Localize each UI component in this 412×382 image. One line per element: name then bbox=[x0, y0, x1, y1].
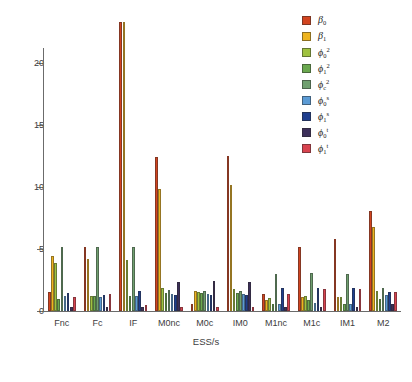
x-axis-tick-label: M0nc bbox=[151, 316, 187, 332]
x-axis-tick-label: IM0 bbox=[223, 316, 259, 332]
x-axis-title: ESS/s bbox=[0, 336, 412, 347]
legend-label: ϕ0t bbox=[318, 126, 328, 139]
x-axis-tick-label: M1c bbox=[294, 316, 330, 332]
legend-color-swatch bbox=[302, 80, 311, 89]
legend-label: ϕ12 bbox=[318, 62, 330, 75]
legend-item: ϕ0t bbox=[302, 124, 410, 140]
bar-group bbox=[115, 20, 151, 311]
bar bbox=[287, 294, 290, 311]
x-axis-tick-labels: FncFcIFM0ncM0cIM0M1ncM1cIM1M2 bbox=[44, 316, 401, 332]
bar bbox=[180, 307, 183, 311]
chart-root: 05101520 FncFcIFM0ncM0cIM0M1ncM1cIM1M2 E… bbox=[0, 0, 412, 382]
bar bbox=[216, 307, 219, 311]
bar-group bbox=[151, 20, 187, 311]
bar-group bbox=[187, 20, 223, 311]
bar bbox=[323, 289, 326, 311]
legend-label: β0 bbox=[318, 14, 326, 26]
bar-group bbox=[223, 20, 259, 311]
legend-color-swatch bbox=[302, 32, 311, 41]
legend-item: ϕ02 bbox=[302, 44, 410, 60]
y-axis-tick-label: 0 bbox=[18, 307, 44, 316]
legend-label: ϕ02 bbox=[318, 46, 330, 59]
y-axis: 05101520 bbox=[0, 0, 44, 382]
legend-item: ϕ1t bbox=[302, 140, 410, 156]
x-axis-tick-label: IF bbox=[115, 316, 151, 332]
legend-item: ϕ1s bbox=[302, 108, 410, 124]
bar-group bbox=[44, 20, 80, 311]
bar-group bbox=[258, 20, 294, 311]
legend: β0β1ϕ02ϕ12ϕc2ϕ0sϕ1sϕ0tϕ1t bbox=[302, 12, 410, 156]
y-axis-tick-label: 10 bbox=[18, 183, 44, 192]
legend-color-swatch bbox=[302, 112, 311, 121]
bar bbox=[252, 307, 255, 311]
legend-label: ϕ1s bbox=[318, 110, 329, 123]
y-axis-tick-label: 5 bbox=[18, 245, 44, 254]
legend-item: ϕc2 bbox=[302, 76, 410, 92]
x-axis-tick-label: Fnc bbox=[44, 316, 80, 332]
legend-label: β1 bbox=[318, 30, 326, 42]
x-axis-tick-label: Fc bbox=[80, 316, 116, 332]
legend-item: β0 bbox=[302, 12, 410, 28]
legend-color-swatch bbox=[302, 96, 311, 105]
legend-label: ϕ1t bbox=[318, 142, 328, 155]
bar bbox=[145, 305, 148, 311]
legend-color-swatch bbox=[302, 16, 311, 25]
legend-color-swatch bbox=[302, 64, 311, 73]
x-axis-tick-label: M0c bbox=[187, 316, 223, 332]
legend-item: β1 bbox=[302, 28, 410, 44]
y-axis-tick-label: 15 bbox=[18, 121, 44, 130]
legend-label: ϕc2 bbox=[318, 78, 329, 91]
bar bbox=[73, 297, 76, 311]
legend-color-swatch bbox=[302, 48, 311, 57]
x-axis-line bbox=[43, 311, 401, 312]
legend-label: ϕ0s bbox=[318, 94, 329, 107]
legend-item: ϕ0s bbox=[302, 92, 410, 108]
legend-color-swatch bbox=[302, 128, 311, 137]
legend-item: ϕ12 bbox=[302, 60, 410, 76]
x-axis-tick-label: IM1 bbox=[330, 316, 366, 332]
legend-color-swatch bbox=[302, 144, 311, 153]
x-axis-tick-label: M2 bbox=[365, 316, 401, 332]
bar bbox=[359, 289, 362, 311]
bar-group bbox=[80, 20, 116, 311]
bar bbox=[109, 294, 112, 311]
x-axis-tick-label: M1nc bbox=[258, 316, 294, 332]
bar bbox=[394, 292, 397, 311]
y-axis-tick-label: 20 bbox=[18, 59, 44, 68]
